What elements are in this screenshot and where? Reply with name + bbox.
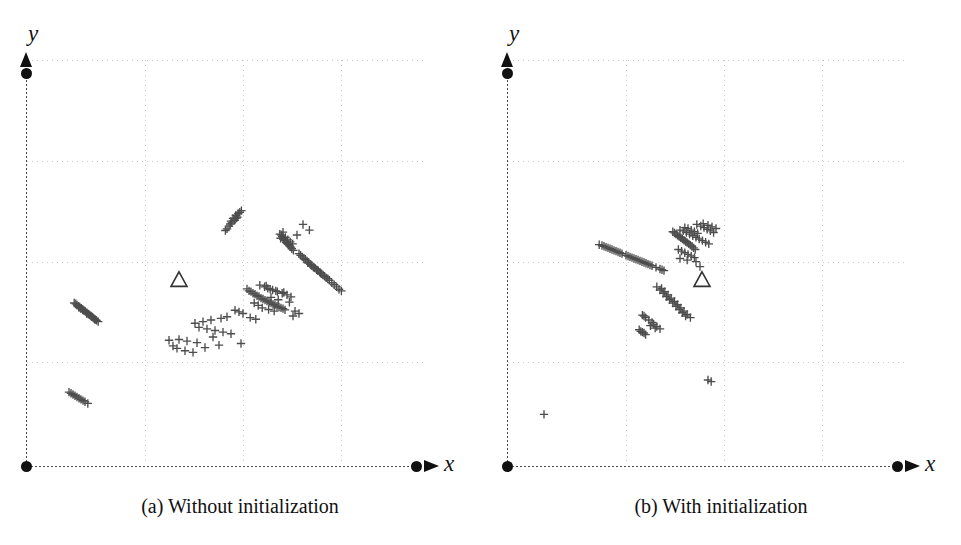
scatter-point [201,343,209,351]
scatter-point [181,347,189,355]
panel-caption-b: (b) With initialization [481,495,961,518]
scatter-point [696,262,704,270]
y-axis-arrow-icon [501,52,513,67]
scatter-point [235,308,243,316]
scatter-point [692,257,700,265]
scatter-point [273,287,281,295]
scatter-point [227,330,235,338]
scatter-point [191,319,199,327]
scatter-point [285,298,293,306]
y-axis-line-a [26,64,27,468]
scatter-point [293,231,301,239]
scatter-point [683,256,691,264]
y-axis-label-a: y [28,22,38,45]
scatter-point [246,313,254,321]
scatter-point [183,337,191,345]
plot-area-b [508,60,908,465]
scatter-point [193,338,201,346]
scatter-point [540,410,548,418]
scatter-point [299,220,307,228]
scatter-point [219,328,227,336]
figure-container: y x (a) Without initialization [0,0,961,545]
scatter-point [656,265,664,273]
scatter-point [195,323,203,331]
scatter-point [207,316,215,324]
scatter-markers-a [27,60,427,465]
x-axis-label-b: x [925,452,935,475]
scatter-point [693,220,701,228]
x-axis-label-a: x [444,452,454,475]
y-axis-end-dot [21,68,32,79]
scatter-point [211,326,219,334]
scatter-point [239,309,247,317]
y-axis-line-b [507,64,508,468]
scatter-point [165,336,173,344]
x-axis-line-a [27,466,419,467]
scatter-point [223,313,231,321]
scatter-point [231,306,239,314]
scatter-point [305,226,313,234]
x-axis-line-b [508,466,900,467]
x-axis-end-dot [892,461,903,472]
scatter-point [676,254,684,262]
x-axis-end-dot [411,461,422,472]
y-axis-label-b: y [509,22,519,45]
reference-triangle-marker [171,272,187,287]
reference-triangle-marker [694,272,710,287]
scatter-point [189,348,197,356]
scatter-point [660,266,668,274]
scatter-point [217,314,225,322]
x-axis-arrow-icon [905,460,920,472]
scatter-point [199,317,207,325]
panel-caption-a: (a) Without initialization [0,495,480,518]
scatter-point [256,281,264,289]
origin-dot [502,461,513,472]
scatter-point [287,293,295,301]
scatter-point [640,312,648,320]
plot-area-a [27,60,427,465]
panel-a: y x (a) Without initialization [0,0,480,545]
y-axis-end-dot [502,68,513,79]
x-axis-arrow-icon [424,460,439,472]
scatter-markers-b [508,60,908,465]
scatter-point [209,333,217,341]
y-axis-arrow-icon [20,52,32,67]
origin-dot [21,461,32,472]
panel-b: y x (b) With initialization [481,0,961,545]
scatter-point [203,325,211,333]
scatter-point [215,341,223,349]
scatter-point [237,339,245,347]
scatter-point [252,315,260,323]
scatter-point [175,335,183,343]
